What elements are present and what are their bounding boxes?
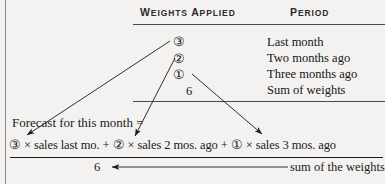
column-header-weights-applied: WEIGHTS APPLIED <box>140 7 236 18</box>
period-label-row-3: Three months ago <box>267 68 357 81</box>
weight-value-row-3: ① <box>173 68 185 81</box>
connector-weight-1 <box>192 74 262 134</box>
sum-of-weights-annotation: sum of the weights <box>290 161 385 174</box>
period-label-row-2: Two months ago <box>267 52 350 65</box>
formula-numerator: ③ × sales last mo. + ② × sales 2 mos. ag… <box>9 139 336 152</box>
period-label-sum: Sum of weights <box>267 84 345 97</box>
forecast-formula-label: Forecast for this month = <box>12 116 144 129</box>
weight-value-sum: 6 <box>186 85 192 98</box>
weight-value-row-2: ② <box>173 52 185 65</box>
weight-value-row-1: ③ <box>173 35 185 48</box>
formula-denominator: 6 <box>94 161 100 174</box>
column-header-period: PERIOD <box>290 7 329 18</box>
figure-canvas: WEIGHTS APPLIED PERIOD ③ ② ① 6 Last mont… <box>0 0 385 184</box>
period-label-row-1: Last month <box>267 36 324 49</box>
